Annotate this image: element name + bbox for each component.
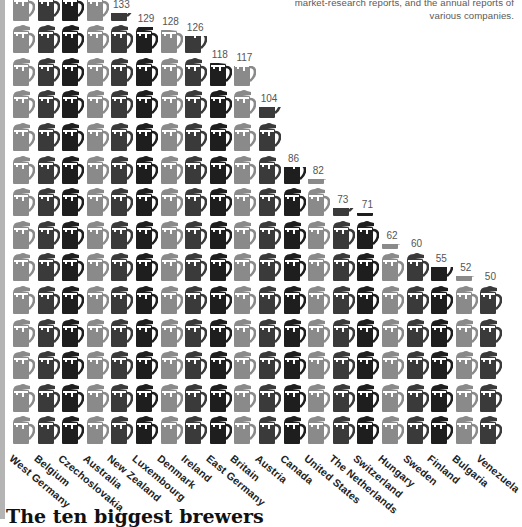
beer-mug-icon [60,318,84,348]
partial-beer-mug-icon [355,213,379,217]
beer-mug-icon [134,220,158,250]
beer-mug-icon [159,122,183,152]
beer-mug-icon [60,220,84,250]
beer-mug-icon [85,415,109,445]
beer-mug-icon [257,220,281,250]
beer-mug-icon [11,122,35,152]
beer-mug-icon [232,383,256,413]
beer-mug-icon [331,220,355,250]
value-label: 82 [298,165,338,176]
beer-mug-icon [306,252,330,282]
beer-mug-icon [109,252,133,282]
beer-mug-icon [208,220,232,250]
beer-mug-icon [36,220,60,250]
beer-mug-icon [405,383,429,413]
beer-mug-icon [36,57,60,87]
beer-mug-icon [36,383,60,413]
beer-mug-icon [11,89,35,119]
beer-mug-icon [109,24,133,54]
value-label: 104 [249,93,289,104]
beer-mug-icon [159,57,183,87]
beer-mug-icon [159,220,183,250]
beer-mug-icon [109,57,133,87]
beer-mug-icon [331,252,355,282]
beer-mug-icon [208,252,232,282]
beer-mug-icon [232,318,256,348]
value-label: 126 [175,22,215,33]
beer-mug-icon [429,415,453,445]
partial-beer-mug-icon [134,27,158,54]
beer-mug-icon [257,318,281,348]
beer-mug-icon [183,383,207,413]
partial-beer-mug-icon [257,107,281,119]
beer-mug-icon [85,350,109,380]
beer-mug-icon [85,285,109,315]
beer-mug-icon [159,252,183,282]
beer-mug-icon [306,350,330,380]
partial-beer-mug-icon [232,66,256,87]
beer-mug-icon [183,220,207,250]
value-label: 71 [347,199,387,210]
beer-mug-icon [109,122,133,152]
beer-mug-icon [11,24,35,54]
beer-mug-icon [454,350,478,380]
beer-mug-icon [183,415,207,445]
beer-mug-icon [134,122,158,152]
beer-mug-icon [380,350,404,380]
beer-mug-icon [380,285,404,315]
beer-mug-icon [282,350,306,380]
beer-mug-icon [36,122,60,152]
beer-mug-icon [159,350,183,380]
beer-mug-icon [282,187,306,217]
beer-mug-icon [85,252,109,282]
beer-mug-icon [60,24,84,54]
beer-mug-icon [85,89,109,119]
beer-mug-icon [60,122,84,152]
beer-mug-icon [60,187,84,217]
beer-mug-icon [232,187,256,217]
beer-mug-icon [478,383,502,413]
beer-mug-icon [11,383,35,413]
beer-mug-icon [159,285,183,315]
beer-mug-icon [257,285,281,315]
beer-mug-icon [282,383,306,413]
beer-mug-icon [355,252,379,282]
beer-mug-icon [454,415,478,445]
value-label: 60 [397,238,437,249]
beer-mug-icon [85,220,109,250]
beer-mug-icon [36,350,60,380]
beer-mug-icon [208,89,232,119]
beer-mug-icon [306,383,330,413]
beer-mug-icon [60,0,84,22]
beer-mug-icon [159,89,183,119]
beer-mug-icon [232,220,256,250]
partial-beer-mug-icon [306,179,330,185]
beer-mug-icon [36,0,60,22]
beer-mug-icon [380,318,404,348]
beer-mug-icon [478,415,502,445]
beer-mug-icon [355,383,379,413]
beer-mug-icon [478,350,502,380]
beer-mug-icon [60,155,84,185]
beer-mug-icon [282,220,306,250]
beer-mug-icon [380,383,404,413]
beer-mug-icon [232,415,256,445]
beer-mug-icon [11,155,35,185]
beer-mug-icon [232,350,256,380]
beer-mug-icon [85,122,109,152]
beer-mug-icon [60,57,84,87]
beer-mug-icon [355,285,379,315]
beer-mug-icon [36,252,60,282]
beer-mug-icon [282,318,306,348]
beer-mug-icon [109,155,133,185]
beer-mug-icon [134,187,158,217]
beer-mug-icon [11,220,35,250]
beer-mug-icon [183,155,207,185]
beer-mug-icon [109,415,133,445]
beer-mug-icon [306,415,330,445]
beer-mug-icon [282,252,306,282]
beer-mug-icon [11,252,35,282]
beer-mug-icon [11,350,35,380]
beer-mug-icon [36,24,60,54]
beer-mug-icon [208,122,232,152]
